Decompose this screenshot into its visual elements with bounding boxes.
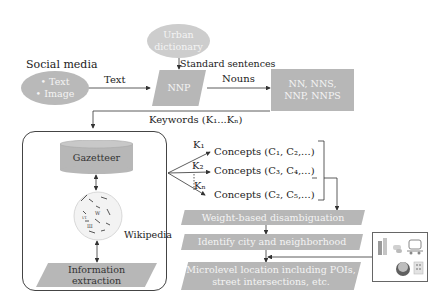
step-3-line2: street intersections, etc.: [212, 276, 330, 288]
branch-k2-label: K₂: [192, 160, 203, 171]
nouns-edge-label: Nouns: [222, 73, 255, 84]
car-icon: [407, 240, 423, 255]
information-extraction-node: Information extraction: [36, 263, 157, 287]
keywords-label: Keywords (K₁...Kₙ): [149, 114, 242, 125]
nnp-node: NNP: [152, 70, 206, 106]
noun-tags-node: NN, NNS, NNP, NNPS: [271, 69, 354, 111]
social-media-title: Social media: [26, 58, 97, 71]
social-media-item-text: • Text: [40, 76, 69, 88]
poi-icons: [373, 233, 427, 281]
info-extraction-line1: Information: [68, 264, 125, 275]
svg-text:Ш: Ш: [87, 223, 93, 229]
wikipedia-globe: ιτ W Ш: [71, 191, 127, 241]
gazetteer-label: Gazetteer: [60, 152, 133, 163]
step-2-label: Identify city and neighborhood: [198, 236, 347, 248]
building-icon: [378, 238, 387, 255]
wikipedia-globe-icon: ιτ W Ш: [71, 191, 127, 241]
poi-icons-panel: [372, 232, 428, 282]
step-3-line1: Microlevel location including POIs,: [186, 264, 355, 276]
branch-k1-concepts: Concepts (C₁, C₂,...): [214, 146, 315, 157]
social-media-node: • Text • Image: [21, 71, 89, 105]
noun-tags-line2: NNP, NNPS: [284, 90, 341, 102]
standard-sentences-label: Standard sentences: [180, 58, 276, 69]
office-icon: [414, 262, 423, 274]
nnp-label: NNP: [167, 82, 190, 94]
step-microlevel-location: Microlevel location including POIs, stre…: [181, 262, 361, 290]
urban-dictionary-node: Urban dictionary: [147, 24, 210, 58]
branch-k2-concepts: Concepts (C₃, C₄,...): [214, 165, 315, 176]
step-1-label: Weight-based disambiguation: [202, 212, 345, 224]
urban-dictionary-line2: dictionary: [154, 41, 203, 53]
branch-k1-label: K₁: [193, 139, 204, 150]
info-extraction-line2: extraction: [72, 275, 121, 286]
globe-building-icon: [396, 262, 410, 276]
social-media-item-image: • Image: [36, 88, 75, 100]
urban-dictionary-line1: Urban: [163, 29, 193, 41]
step-identify-city: Identify city and neighborhood: [181, 234, 363, 250]
noun-tags-line1: NN, NNS,: [289, 78, 337, 90]
branch-kn-concepts: Concepts (C₂, C₅,...): [214, 189, 315, 200]
step-weight-disambiguation: Weight-based disambiguation: [181, 210, 365, 225]
svg-text:ιτ: ιτ: [82, 214, 87, 220]
gazetteer-node: Gazetteer: [60, 140, 133, 174]
branch-kn-label: Kₙ: [194, 180, 206, 191]
svg-text:W: W: [95, 210, 101, 216]
text-edge-label: Text: [104, 74, 125, 85]
wikipedia-label: Wikipedia: [124, 229, 172, 240]
chat-icon: [393, 245, 402, 253]
